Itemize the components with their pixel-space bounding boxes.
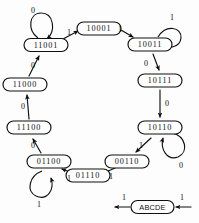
state-label: 11000 [13,80,38,89]
state-label: 10001 [87,24,112,33]
state-node-10110[interactable]: 10110 [138,121,182,134]
edge-label-10110-00110: 1 [139,141,143,150]
edge-label-01100-11100: 0 [31,141,35,150]
state-nodes: 11001 10001 10011 10111 10110 00110 [3,22,182,182]
self-loop-label-11001: 0 [31,6,35,15]
state-node-11001[interactable]: 11001 [24,39,68,52]
state-node-01110[interactable]: 01110 [66,169,110,182]
self-loop-11001 [31,13,53,39]
edge-label-10111-10110: 0 [165,99,169,108]
state-label: 10011 [138,40,163,49]
edge-label-10011-10111: 0 [144,59,148,68]
edge-label-10001-10011: 1 [118,25,122,34]
edge-10011-to-10111 [153,54,159,70]
state-node-11000[interactable]: 11000 [3,78,47,91]
state-label: 01100 [37,157,62,166]
edge-label-11000-11001: 0 [31,61,35,70]
legend-node-label: ABCDE [139,203,165,212]
state-label: 10111 [148,76,172,85]
edge-10001-to-10011 [121,30,133,37]
state-node-11100[interactable]: 11100 [7,121,51,134]
legend-output-label: 1 [122,193,126,202]
state-node-10011[interactable]: 10011 [128,38,172,51]
edge-label-11100-11000: 0 [21,102,25,111]
state-node-01100[interactable]: 01100 [27,155,71,168]
legend-key: ABCDE 1 1 [115,193,191,214]
self-loop-10110 [162,133,184,158]
state-label: 11001 [34,41,59,50]
state-node-10111[interactable]: 10111 [138,74,182,87]
edge-label-11001-10001: 1 [67,28,71,37]
self-loop-01100 [30,171,52,197]
fsm-diagram-page: 11001 10001 10011 10111 10110 00110 [0,0,199,223]
state-label: 10110 [148,123,173,132]
edge-label-00110-01110: 1 [109,172,113,181]
self-loop-label-10011: 1 [170,13,174,22]
self-loop-label-10110: 0 [179,161,183,170]
state-node-10001[interactable]: 10001 [77,22,121,35]
state-label: 00110 [115,157,140,166]
edge-label-01110-01100: 1 [67,174,71,183]
state-label: 01110 [76,171,100,180]
legend-input-label: 1 [180,193,184,202]
state-node-00110[interactable]: 00110 [105,155,149,168]
self-loop-label-01100: 1 [37,200,41,209]
state-label: 11100 [17,123,41,132]
edge-11100-to-11000 [27,95,29,119]
state-diagram-canvas: 11001 10001 10011 10111 10110 00110 [0,0,199,223]
